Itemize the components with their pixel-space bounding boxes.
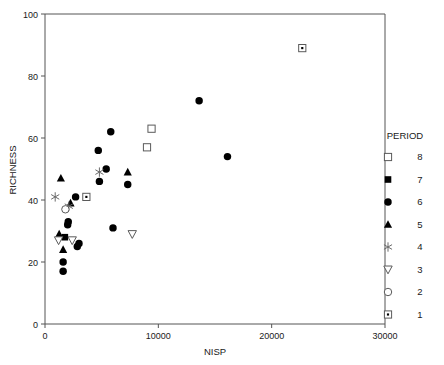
marker-open-triangle-down: [54, 237, 62, 245]
legend-item-label: 2: [417, 286, 422, 297]
y-tick-label: 60: [28, 134, 38, 144]
marker-filled-circle: [109, 224, 116, 231]
data-point: [59, 245, 67, 253]
series-4: [51, 167, 103, 210]
marker-filled-triangle-up: [57, 174, 65, 182]
legend-marker-filled-circle: [384, 198, 391, 205]
y-tick-label: 20: [28, 258, 38, 268]
data-point: [96, 178, 103, 185]
legend-item-label: 5: [417, 219, 422, 230]
legend-item-8[interactable]: 8: [384, 151, 422, 162]
data-point: [83, 193, 90, 200]
marker-filled-circle: [59, 268, 66, 275]
marker-filled-square: [385, 176, 392, 183]
x-axis-title: NISP: [204, 346, 226, 357]
data-point: [224, 153, 231, 160]
data-point: [124, 181, 131, 188]
marker-open-triangle-down: [128, 231, 136, 239]
marker-filled-circle: [95, 147, 102, 154]
legend-item-label: 4: [417, 241, 422, 252]
legend-item-3[interactable]: 3: [384, 264, 423, 275]
marker-open-square: [384, 153, 391, 160]
marker-filled-triangle-up: [55, 230, 63, 238]
marker-dotted-square-center: [301, 47, 303, 49]
marker-filled-circle: [224, 153, 231, 160]
legend-item-5[interactable]: 5: [384, 219, 423, 230]
chart-canvas: 0204060801000100002000030000 PERIOD87654…: [0, 0, 444, 365]
data-point: [95, 147, 102, 154]
x-tick-label: 10000: [146, 331, 171, 341]
data-point: [128, 231, 136, 239]
data-point: [107, 128, 114, 135]
data-point: [195, 97, 202, 104]
data-point: [59, 268, 66, 275]
marker-filled-circle: [64, 221, 71, 228]
data-points-layer: [51, 45, 306, 276]
series-6: [59, 97, 231, 275]
legend-item-7[interactable]: 7: [385, 174, 423, 185]
legend-marker-open-square: [384, 153, 391, 160]
legend-item-label: 6: [417, 196, 422, 207]
data-point: [299, 45, 306, 52]
data-point: [54, 237, 62, 245]
y-tick-label: 0: [33, 320, 38, 330]
marker-open-circle: [62, 206, 69, 213]
marker-filled-circle: [102, 165, 109, 172]
data-point: [109, 224, 116, 231]
x-tick-label: 20000: [259, 331, 284, 341]
series-8: [143, 125, 155, 151]
x-tick-label: 0: [42, 331, 47, 341]
axes-layer: 0204060801000100002000030000: [23, 10, 398, 342]
marker-filled-circle: [384, 198, 391, 205]
marker-open-triangle-down: [68, 237, 76, 245]
data-point: [51, 192, 59, 201]
data-point: [95, 167, 103, 176]
data-point: [143, 144, 150, 151]
data-point: [74, 243, 81, 250]
data-point: [62, 206, 69, 213]
data-point: [148, 125, 155, 132]
legend-item-4[interactable]: 4: [384, 241, 423, 252]
y-tick-label: 40: [28, 196, 38, 206]
marker-filled-circle: [59, 258, 66, 265]
legend-item-6[interactable]: 6: [384, 196, 422, 207]
data-point: [64, 221, 71, 228]
legend-item-label: 7: [417, 174, 422, 185]
marker-open-square: [143, 144, 150, 151]
marker-dotted-square-center: [387, 313, 389, 315]
scatter-plot-figure: 0204060801000100002000030000 PERIOD87654…: [0, 0, 444, 365]
legend-title: PERIOD: [387, 130, 424, 141]
series-1: [83, 45, 306, 201]
legend-item-label: 8: [417, 151, 422, 162]
data-point: [59, 258, 66, 265]
series-2: [62, 206, 69, 213]
y-tick-label: 100: [23, 10, 38, 20]
data-point: [102, 165, 109, 172]
marker-dotted-square-center: [85, 196, 87, 198]
data-point: [57, 174, 65, 182]
y-tick-label: 80: [28, 72, 38, 82]
legend-marker-filled-square: [385, 176, 392, 183]
legend-layer: PERIOD87654321: [384, 130, 424, 320]
marker-filled-circle: [74, 243, 81, 250]
data-point: [124, 168, 132, 176]
marker-open-square: [148, 125, 155, 132]
marker-filled-circle: [96, 178, 103, 185]
data-point: [68, 237, 76, 245]
marker-filled-circle: [107, 128, 114, 135]
x-tick-label: 30000: [372, 331, 397, 341]
marker-filled-circle: [195, 97, 202, 104]
legend-item-label: 1: [417, 309, 422, 320]
marker-filled-triangle-up: [59, 245, 67, 253]
data-point: [55, 230, 63, 238]
legend-item-2[interactable]: 2: [384, 286, 422, 297]
legend-marker-dotted-square: [384, 311, 391, 318]
marker-filled-circle: [72, 193, 79, 200]
marker-filled-circle: [124, 181, 131, 188]
legend-item-label: 3: [417, 264, 422, 275]
marker-filled-triangle-up: [124, 168, 132, 176]
legend-marker-open-circle: [384, 288, 391, 295]
y-axis-title: RICHNESS: [7, 145, 18, 194]
legend-item-1[interactable]: 1: [384, 309, 422, 320]
data-point: [72, 193, 79, 200]
